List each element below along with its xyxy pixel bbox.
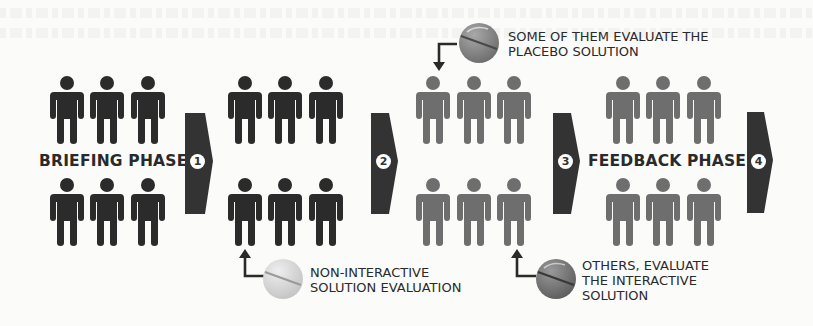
participant-icon <box>266 178 304 246</box>
participant-icon <box>266 76 304 144</box>
placebo-annotation-text: SOME OF THEM EVALUATE THE PLACEBO SOLUTI… <box>508 29 709 59</box>
noninteractive-annotation-text: NON-INTERACTIVE SOLUTION EVALUATION <box>310 265 461 295</box>
participant-icon <box>414 178 452 246</box>
participant-icon <box>226 76 264 144</box>
background-bleed-text <box>0 8 813 18</box>
pill-medium-icon <box>458 22 500 64</box>
briefing-phase-label: BRIEFING PHASE <box>39 154 187 170</box>
pill-light-icon <box>262 258 304 300</box>
step-number-3: 3 <box>558 154 573 169</box>
participant-icon <box>685 178 723 246</box>
participant-icon <box>307 76 345 144</box>
interactive-annotation-text: OTHERS, EVALUATE THE INTERACTIVE SOLUTIO… <box>582 258 709 303</box>
participant-icon <box>307 178 345 246</box>
participant-icon <box>604 76 642 144</box>
participant-icon <box>48 178 86 246</box>
step-number-2: 2 <box>376 154 391 169</box>
participant-icon <box>88 76 126 144</box>
participant-icon <box>685 76 723 144</box>
elbow-arrow-down-icon <box>430 40 460 72</box>
participant-icon <box>604 178 642 246</box>
participant-icon <box>48 76 86 144</box>
participant-icon <box>455 76 493 144</box>
pill-dark-icon <box>535 258 577 300</box>
feedback-phase-label: FEEDBACK PHASE <box>588 154 746 170</box>
participant-icon <box>88 178 126 246</box>
elbow-arrow-up-icon <box>508 248 538 280</box>
participant-icon <box>414 76 452 144</box>
step-number-1: 1 <box>190 154 205 169</box>
participant-icon <box>226 178 264 246</box>
participant-icon <box>495 76 533 144</box>
step-number-4: 4 <box>751 154 766 169</box>
participant-icon <box>644 178 682 246</box>
participant-icon <box>644 76 682 144</box>
participant-icon <box>455 178 493 246</box>
participant-icon <box>129 178 167 246</box>
participant-icon <box>129 76 167 144</box>
participant-icon <box>495 178 533 246</box>
